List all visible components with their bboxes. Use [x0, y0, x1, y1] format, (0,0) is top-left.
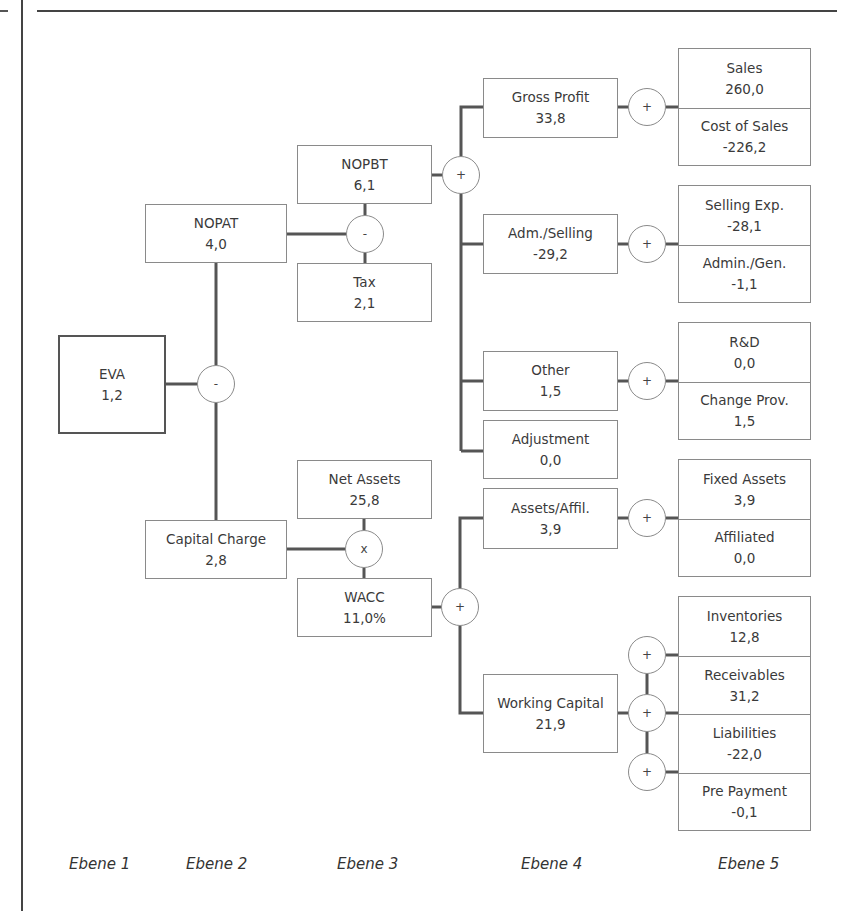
level-label-3: Ebene 3 — [337, 855, 398, 873]
node-label: Net Assets — [329, 469, 401, 490]
node-value: 31,2 — [729, 686, 759, 707]
node-value: -1,1 — [731, 274, 757, 295]
node-label: Tax — [353, 272, 375, 293]
plus-operator-icon: + — [628, 362, 666, 400]
node-value: 260,0 — [725, 79, 764, 100]
node-value: 6,1 — [354, 175, 375, 196]
node-tax: Tax 2,1 — [297, 263, 432, 322]
node-value: 0,0 — [734, 353, 755, 374]
node-label: EVA — [99, 364, 125, 385]
node-working-capital: Working Capital 21,9 — [483, 674, 618, 753]
node-selling-exp: Selling Exp. -28,1 — [679, 186, 810, 245]
node-value: -22,0 — [727, 744, 762, 765]
node-label: Adjustment — [512, 429, 590, 450]
node-adjustment: Adjustment 0,0 — [483, 420, 618, 479]
node-value: 1,2 — [101, 385, 122, 406]
node-value: 1,5 — [540, 381, 561, 402]
plus-operator-icon: + — [628, 694, 666, 732]
node-capital-charge: Capital Charge 2,8 — [145, 520, 287, 579]
group-assets-affil-components: Fixed Assets 3,9 Affiliated 0,0 — [678, 459, 811, 577]
group-gross-profit-components: Sales 260,0 Cost of Sales -226,2 — [678, 48, 811, 166]
node-nopbt: NOPBT 6,1 — [297, 145, 432, 204]
node-pre-payment: Pre Payment -0,1 — [679, 773, 810, 830]
node-label: Change Prov. — [700, 390, 789, 411]
node-label: Fixed Assets — [703, 469, 786, 490]
node-label: WACC — [344, 587, 384, 608]
node-label: Adm./Selling — [508, 223, 593, 244]
group-working-capital-components: Inventories 12,8 Receivables 31,2 Liabil… — [678, 596, 811, 831]
level-label-2: Ebene 2 — [186, 855, 247, 873]
node-assets-affil: Assets/Affil. 3,9 — [483, 488, 618, 549]
level-label-5: Ebene 5 — [718, 855, 779, 873]
node-gross-profit: Gross Profit 33,8 — [483, 78, 618, 138]
plus-operator-icon: + — [441, 588, 479, 626]
node-admin-gen: Admin./Gen. -1,1 — [679, 245, 810, 302]
group-other-components: R&D 0,0 Change Prov. 1,5 — [678, 322, 811, 440]
node-value: -226,2 — [723, 137, 767, 158]
node-fixed-assets: Fixed Assets 3,9 — [679, 460, 810, 519]
plus-operator-icon: + — [628, 636, 666, 674]
node-value: 3,9 — [734, 490, 755, 511]
node-other: Other 1,5 — [483, 351, 618, 411]
node-rnd: R&D 0,0 — [679, 323, 810, 382]
node-liabilities: Liabilities -22,0 — [679, 714, 810, 773]
node-adm-selling: Adm./Selling -29,2 — [483, 214, 618, 274]
node-affiliated: Affiliated 0,0 — [679, 519, 810, 576]
plus-operator-icon: + — [628, 499, 666, 537]
node-label: Selling Exp. — [705, 195, 784, 216]
node-value: 25,8 — [349, 490, 379, 511]
plus-operator-icon: + — [628, 225, 666, 263]
node-wacc: WACC 11,0% — [297, 578, 432, 637]
plus-operator-icon: + — [628, 88, 666, 126]
node-label: NOPAT — [194, 213, 238, 234]
plus-operator-icon: + — [628, 753, 666, 791]
node-value: -0,1 — [731, 802, 757, 823]
node-value: 21,9 — [535, 714, 565, 735]
node-label: Pre Payment — [702, 781, 787, 802]
node-cost-of-sales: Cost of Sales -226,2 — [679, 108, 810, 165]
node-label: Other — [531, 360, 569, 381]
node-value: 4,0 — [205, 234, 226, 255]
node-label: Admin./Gen. — [703, 253, 786, 274]
node-value: 2,8 — [205, 550, 226, 571]
node-value: 3,9 — [540, 519, 561, 540]
level-label-4: Ebene 4 — [521, 855, 582, 873]
minus-operator-icon: - — [346, 215, 384, 253]
node-label: Sales — [727, 58, 763, 79]
node-change-prov: Change Prov. 1,5 — [679, 382, 810, 439]
node-label: Gross Profit — [512, 87, 590, 108]
node-label: Liabilities — [713, 723, 777, 744]
node-sales: Sales 260,0 — [679, 49, 810, 108]
node-value: 33,8 — [535, 108, 565, 129]
node-label: Affiliated — [714, 527, 774, 548]
node-value: 2,1 — [354, 293, 375, 314]
group-adm-selling-components: Selling Exp. -28,1 Admin./Gen. -1,1 — [678, 185, 811, 303]
node-nopat: NOPAT 4,0 — [145, 204, 287, 263]
node-label: Capital Charge — [166, 529, 266, 550]
plus-operator-icon: + — [442, 156, 480, 194]
node-label: Receivables — [704, 665, 784, 686]
multiply-operator-icon: x — [345, 530, 383, 568]
minus-operator-icon: - — [197, 365, 235, 403]
node-inventories: Inventories 12,8 — [679, 597, 810, 656]
node-value: 12,8 — [729, 627, 759, 648]
node-label: R&D — [729, 332, 759, 353]
node-value: -29,2 — [533, 244, 568, 265]
node-net-assets: Net Assets 25,8 — [297, 460, 432, 519]
node-label: Assets/Affil. — [511, 498, 590, 519]
node-label: Inventories — [707, 606, 783, 627]
level-label-1: Ebene 1 — [69, 855, 130, 873]
node-value: 11,0% — [343, 608, 386, 629]
node-value: 1,5 — [734, 411, 755, 432]
node-eva: EVA 1,2 — [58, 335, 166, 434]
node-label: Working Capital — [497, 693, 604, 714]
node-value: 0,0 — [540, 450, 561, 471]
node-receivables: Receivables 31,2 — [679, 656, 810, 714]
node-label: Cost of Sales — [701, 116, 789, 137]
node-value: 0,0 — [734, 548, 755, 569]
node-value: -28,1 — [727, 216, 762, 237]
node-label: NOPBT — [341, 154, 387, 175]
